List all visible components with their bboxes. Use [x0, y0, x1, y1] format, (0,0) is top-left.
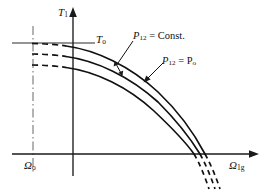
omega-0-label-sub: o	[32, 163, 36, 172]
p12-p0-leader-line	[146, 63, 163, 80]
p12-p0-label: P12 = Po	[162, 56, 196, 67]
p12-p0-label-eq: = P	[176, 55, 193, 66]
x-axis-label-main: Ω	[229, 159, 237, 171]
p12-const-label-sub: 12	[139, 34, 146, 42]
p12-const-label-eq: = Const.	[147, 30, 185, 41]
T0-label: To	[96, 34, 106, 46]
x-axis-label: Ω1g	[229, 160, 244, 172]
y-axis-label-sub: 1	[64, 10, 68, 19]
p12-const-leader-line	[118, 41, 133, 63]
x-axis-arrow-icon	[249, 150, 259, 158]
p12-p0-label-sub2: o	[193, 59, 197, 67]
curve-middle-dashed-extension	[32, 54, 66, 57]
y-axis-arrow-icon	[69, 7, 77, 17]
figure-container: T1 To P12 = Const. P12 = Po Ωo Ω1g	[0, 0, 275, 191]
curve-upper-tail	[205, 154, 220, 189]
curve-upper-dashed-extension	[32, 44, 66, 47]
T0-label-sub: o	[102, 37, 106, 46]
omega-0-label-main: Ω	[24, 159, 32, 171]
x-axis-label-sub: 1g	[237, 163, 244, 172]
curve-lower-tail	[194, 154, 209, 189]
p12-const-label: P12 = Const.	[133, 31, 185, 42]
p12-p0-label-sub: 12	[168, 59, 175, 67]
y-axis-label: T1	[58, 7, 68, 19]
curve-lower-dashed-extension	[32, 65, 66, 68]
omega-0-label: Ωo	[24, 160, 36, 172]
